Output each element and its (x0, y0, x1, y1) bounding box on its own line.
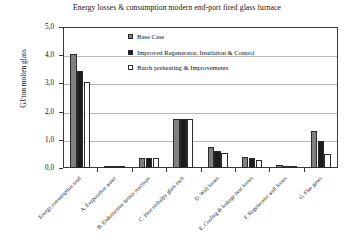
legend-label: Base Case (137, 33, 164, 40)
x-tick-mark (235, 168, 236, 172)
legend-label: Batch preheating & Improvements (137, 64, 228, 71)
x-tick-label: Energy consumption total (0, 175, 82, 248)
legend: Base Case Improved Regenerator, Insulati… (128, 33, 328, 80)
x-tick-mark (201, 168, 202, 172)
x-tick-mark (132, 168, 133, 172)
legend-item[interactable]: Batch preheating & Improvements (128, 64, 328, 71)
x-tick-mark (97, 168, 98, 172)
legend-item[interactable]: Improved Regenerator, Insulation & Contr… (128, 49, 328, 56)
legend-label: Improved Regenerator, Insulation & Contr… (137, 49, 254, 56)
legend-item[interactable]: Base Case (128, 33, 328, 40)
x-tick-mark (269, 168, 270, 172)
legend-swatch-icon (128, 50, 133, 55)
legend-swatch-icon (128, 65, 133, 70)
legend-swatch-icon (128, 34, 133, 39)
x-tick-mark (166, 168, 167, 172)
chart-container: Energy losses & consumption modern end-p… (0, 0, 354, 248)
x-tick-mark (304, 168, 305, 172)
